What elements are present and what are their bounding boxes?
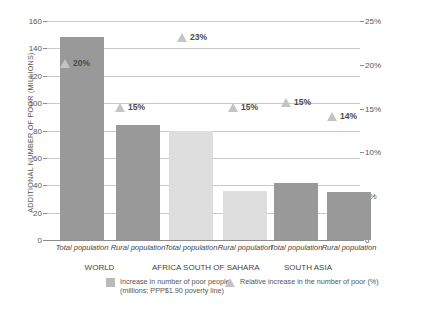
tickmark-left-80 (43, 131, 47, 132)
tickmark-left-0 (43, 240, 47, 241)
triangle-icon (281, 98, 291, 107)
category-label-africa-total: Total population (161, 243, 221, 253)
marker-africa-rural[interactable]: 15% (228, 102, 258, 112)
legend-item-markers[interactable]: Relative increase in the number of poor … (225, 277, 379, 287)
triangle-marker-icon (225, 278, 235, 287)
tickmark-left-160 (43, 21, 47, 22)
y-tick-left-0: 0 (38, 236, 42, 245)
triangle-icon (228, 103, 238, 112)
y-tick-left-3: 60 (33, 153, 42, 162)
marker-world-total[interactable]: 20% (60, 58, 90, 68)
marker-label-south-asia-total: 15% (294, 97, 311, 107)
y-tick-right-2: 10% (365, 148, 381, 157)
marker-world-rural[interactable]: 15% (115, 102, 145, 112)
group-label-south-asia: SOUTH ASIA (256, 263, 360, 272)
tickmark-right-0 (360, 240, 364, 241)
chart-container: ADDITIONAL NUMBER OF POOR (MILLIONS) REL… (0, 0, 428, 309)
legend-text-markers: Relative increase in the number of poor … (240, 277, 379, 286)
category-label-south-asia-rural: Rural population (319, 243, 379, 253)
tickmark-right-25 (360, 21, 364, 22)
bar-africa-rural[interactable] (223, 191, 267, 240)
tickmark-right-10 (360, 152, 364, 153)
y-tick-left-5: 100 (29, 99, 42, 108)
y-tick-left-4: 80 (33, 126, 42, 135)
tickmark-left-100 (43, 103, 47, 104)
bar-africa-total[interactable] (169, 131, 213, 241)
chart-legend: Increase in number of poor people (milli… (106, 277, 422, 301)
marker-label-world-total: 20% (73, 58, 90, 68)
legend-text-markers-line1: Relative increase in the number of poor … (240, 277, 379, 286)
y-tick-left-1: 20 (33, 208, 42, 217)
tickmark-right-15 (360, 109, 364, 110)
y-tick-right-5: 25% (365, 17, 381, 26)
gridline-160 (47, 21, 360, 22)
triangle-icon (327, 112, 337, 121)
marker-label-south-asia-rural: 14% (340, 111, 357, 121)
y-tick-left-7: 140 (29, 44, 42, 53)
tickmark-right-20 (360, 65, 364, 66)
group-label-world: WORLD (47, 263, 152, 272)
tickmark-left-40 (43, 185, 47, 186)
tickmark-left-120 (43, 76, 47, 77)
bar-south-asia-rural[interactable] (327, 192, 371, 240)
tickmark-left-20 (43, 213, 47, 214)
tickmark-left-140 (43, 48, 47, 49)
category-label-world-total: Total population (52, 243, 112, 253)
axis-baseline (47, 240, 360, 241)
y-tick-right-4: 20% (365, 60, 381, 69)
triangle-icon (115, 103, 125, 112)
legend-text-bars-line2: (millions; PPP$1.90 poverty line) (120, 286, 229, 295)
triangle-icon (60, 59, 70, 68)
y-tick-left-2: 40 (33, 181, 42, 190)
y-tick-left-8: 160 (29, 17, 42, 26)
tickmark-left-60 (43, 158, 47, 159)
group-label-africa: AFRICA SOUTH OF SAHARA (152, 263, 256, 272)
marker-south-asia-total[interactable]: 15% (281, 97, 311, 107)
plot-area: 160 140 120 100 80 60 40 20 0 25% 20% 15… (47, 21, 360, 240)
y-tick-right-3: 15% (365, 104, 381, 113)
square-swatch-icon (106, 278, 115, 287)
bar-south-asia-total[interactable] (274, 183, 318, 241)
y-tick-left-6: 120 (29, 71, 42, 80)
legend-text-bars: Increase in number of poor people (milli… (120, 277, 229, 295)
marker-label-africa-rural: 15% (241, 102, 258, 112)
marker-africa-total[interactable]: 23% (177, 32, 207, 42)
triangle-icon (177, 33, 187, 42)
marker-label-africa-total: 23% (190, 32, 207, 42)
category-label-world-rural: Rural population (108, 243, 168, 253)
marker-south-asia-rural[interactable]: 14% (327, 111, 357, 121)
legend-item-bars[interactable]: Increase in number of poor people (milli… (106, 277, 229, 295)
legend-text-bars-line1: Increase in number of poor people (120, 277, 229, 286)
category-label-south-asia-total: Total population (266, 243, 326, 253)
marker-label-world-rural: 15% (128, 102, 145, 112)
group-labels: WORLD AFRICA SOUTH OF SAHARA SOUTH ASIA (47, 263, 360, 275)
bar-world-rural[interactable] (116, 125, 160, 240)
